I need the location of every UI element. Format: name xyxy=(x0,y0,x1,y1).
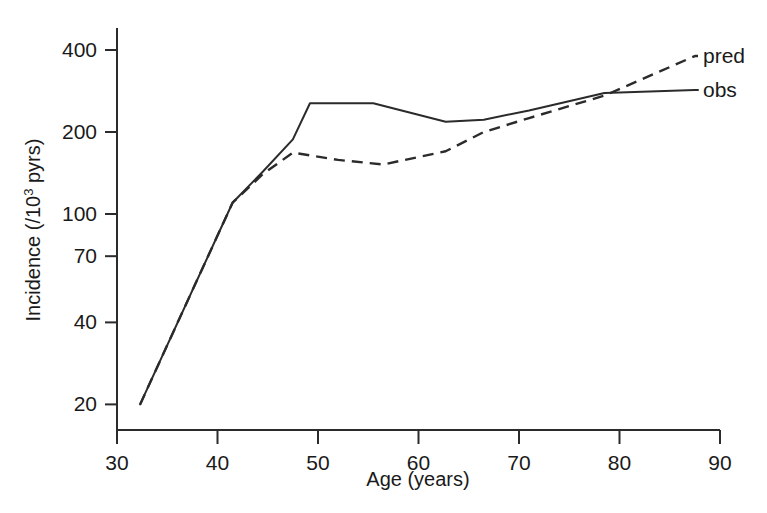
x-tick-label: 70 xyxy=(507,451,530,474)
x-tick-label: 80 xyxy=(608,451,631,474)
x-axis-title: Age (years) xyxy=(366,468,469,490)
y-tick-label: 70 xyxy=(74,244,97,267)
y-axis-title-main: Incidence (/10 xyxy=(22,196,44,322)
incidence-by-age-line-chart: 204070100200400 30405060708090 pred obs … xyxy=(0,0,767,513)
legend-label-obs: obs xyxy=(703,78,737,101)
chart-axes xyxy=(117,28,720,430)
y-tick-label: 200 xyxy=(62,120,97,143)
y-tick-label: 40 xyxy=(74,310,97,333)
y-tick-label: 100 xyxy=(62,202,97,225)
x-tick-label: 40 xyxy=(206,451,229,474)
y-axis-title-superscript: 3 xyxy=(21,189,36,196)
chart-legend: pred obs xyxy=(703,44,745,101)
x-tick-label: 90 xyxy=(708,451,731,474)
y-tick-label: 20 xyxy=(74,392,97,415)
y-axis-ticks: 204070100200400 xyxy=(62,38,117,415)
y-axis-title: Incidence (/103 pyrs) xyxy=(21,139,44,322)
x-tick-label: 30 xyxy=(105,451,128,474)
series-line-obs xyxy=(140,90,698,404)
legend-label-pred: pred xyxy=(703,44,745,67)
chart-series-layer xyxy=(140,56,698,404)
y-tick-label: 400 xyxy=(62,38,97,61)
chart-figure: 204070100200400 30405060708090 pred obs … xyxy=(0,0,767,513)
series-line-pred xyxy=(140,56,698,404)
y-axis-title-tail: pyrs) xyxy=(22,139,44,189)
y-axis-title-group: Incidence (/103 pyrs) xyxy=(21,139,44,322)
x-tick-label: 50 xyxy=(306,451,329,474)
